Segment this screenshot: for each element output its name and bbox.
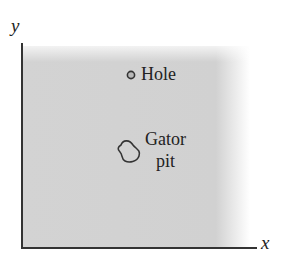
gator-pit-label-line1: Gator [145,128,186,150]
hole-label: Hole [141,64,176,85]
gator-pit-label: Gator pit [145,128,186,172]
hole-marker-icon [127,71,134,78]
coordinate-diagram: y x Hole Gator pit [0,0,282,259]
gator-pit-outline-icon [118,141,139,162]
diagram-shapes [0,0,282,259]
gator-pit-label-line2: pit [145,150,186,172]
